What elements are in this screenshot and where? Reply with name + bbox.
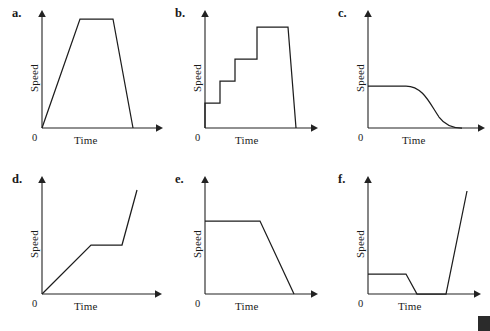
panel-a-y-axis-arrowhead [38,10,46,17]
panel-e: e. Speed Time 0 [163,166,323,331]
panel-c-origin-label: 0 [358,132,363,143]
panel-a-curve [42,19,133,128]
panel-d-curve [42,190,137,294]
panel-f-x-axis-label: Time [398,300,422,312]
panel-d: d. Speed Time 0 [0,166,160,331]
panel-b-x-axis-label: Time [235,134,259,146]
panel-b-origin-label: 0 [195,132,200,143]
panel-b-x-axis-arrowhead [311,124,318,132]
panel-f-x-axis-arrowhead [474,290,481,298]
panel-a-y-axis-label: Speed [28,64,40,92]
panel-f-y-axis-arrowhead [364,176,372,183]
panel-e-y-axis-label: Speed [191,230,203,258]
panel-c: c. Speed Time 0 [326,0,486,165]
panel-b-y-axis-label: Speed [191,64,203,92]
panel-e-y-axis-arrowhead [201,176,209,183]
corner-artifact [478,316,490,331]
panel-d-origin-label: 0 [32,298,37,309]
panel-f-y-axis-label: Speed [354,230,366,258]
panel-b: b. Speed Time 0 [163,0,323,165]
panel-c-x-axis-label: Time [402,134,426,146]
panel-a-x-axis-arrowhead [156,124,163,132]
speed-time-graph-figure: a. Speed Time 0 b. Speed Time 0 c. [0,0,490,331]
panel-b-curve [205,27,296,128]
panel-d-x-axis-label: Time [74,300,98,312]
panel-d-y-axis-arrowhead [38,176,46,183]
panel-d-x-axis-arrowhead [155,290,162,298]
panel-b-y-axis-arrowhead [201,10,209,17]
panel-e-curve [205,221,294,294]
panel-f-origin-label: 0 [358,298,363,309]
panel-d-y-axis-label: Speed [28,230,40,258]
panel-a-origin-label: 0 [32,132,37,143]
panel-e-x-axis-arrowhead [311,290,318,298]
panel-c-y-axis-label: Speed [354,64,366,92]
panel-f: f. Speed Time 0 [326,166,486,331]
panel-e-x-axis-label: Time [235,300,259,312]
panel-c-curve [368,86,462,128]
panel-c-x-axis-arrowhead [478,124,485,132]
panel-a: a. Speed Time 0 [0,0,160,165]
panel-e-origin-label: 0 [195,298,200,309]
panel-c-y-axis-arrowhead [364,10,372,17]
panel-f-curve [368,191,467,294]
panel-a-x-axis-label: Time [74,134,98,146]
